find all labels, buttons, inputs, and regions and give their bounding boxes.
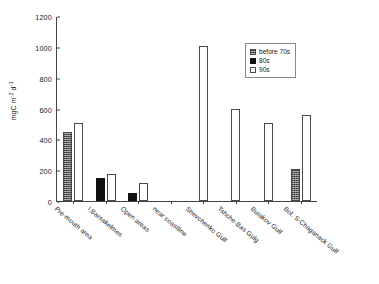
x-axis-label: Butakov Gulf — [250, 205, 284, 235]
legend-item[interactable]: 90s — [250, 65, 290, 74]
y-tick-mark — [57, 202, 60, 203]
x-tick-mark — [203, 201, 204, 204]
bar-2[interactable] — [302, 115, 311, 201]
legend-swatch-icon — [250, 49, 256, 55]
y-tick-label: 200 — [39, 167, 57, 176]
bar-0[interactable] — [291, 169, 300, 201]
bar-2[interactable] — [139, 183, 148, 202]
y-tick-label: 800 — [39, 74, 57, 83]
bar-group — [187, 17, 220, 201]
bar-1[interactable] — [128, 193, 137, 201]
bar-2[interactable] — [264, 123, 273, 201]
bar-1[interactable] — [96, 178, 105, 201]
bar-2[interactable] — [231, 109, 240, 202]
legend-item[interactable]: 80s — [250, 56, 290, 65]
legend-swatch-icon — [250, 58, 256, 64]
chart-legend: before 70s80s90s — [245, 43, 296, 78]
x-tick-mark — [301, 201, 302, 204]
legend-label: 80s — [259, 57, 270, 64]
legend-label: 90s — [259, 66, 270, 73]
legend-item[interactable]: before 70s — [250, 47, 290, 56]
y-tick-label: 400 — [39, 136, 57, 145]
x-axis-labels: Pre-mouth areaI.BarsakelmesOpen areasnea… — [56, 205, 317, 284]
y-tick-label: 1000 — [35, 43, 57, 52]
x-axis-label: Open areas — [119, 205, 151, 233]
bar-chart: mgC m-2 d-1 020040060080010001200 Pre-mo… — [0, 0, 379, 284]
bar-group — [155, 17, 188, 201]
x-tick-mark — [138, 201, 139, 204]
y-axis-title: mgC m-2 d-1 — [8, 81, 18, 120]
legend-label: before 70s — [259, 48, 290, 55]
bar-group — [122, 17, 155, 201]
y-tick-label: 600 — [39, 105, 57, 114]
x-tick-mark — [106, 201, 107, 204]
x-tick-mark — [171, 201, 172, 204]
bar-group — [57, 17, 90, 201]
bar-2[interactable] — [199, 46, 208, 201]
x-tick-mark — [268, 201, 269, 204]
bar-0[interactable] — [63, 132, 72, 201]
legend-swatch-icon — [250, 67, 256, 73]
bar-2[interactable] — [107, 174, 116, 201]
x-axis-label: Bol. S-Chaganack Gulf — [282, 205, 339, 255]
bar-2[interactable] — [74, 123, 83, 201]
bar-group — [90, 17, 123, 201]
y-tick-label: 1200 — [35, 13, 57, 22]
x-tick-mark — [73, 201, 74, 204]
x-tick-mark — [236, 201, 237, 204]
